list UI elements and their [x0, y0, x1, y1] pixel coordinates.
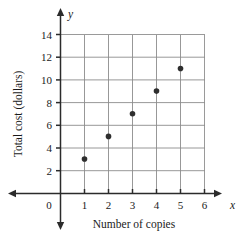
- y-axis-title: Total cost (dollars): [12, 70, 25, 157]
- plot-svg: 0 1 2 3 4 5 6 14 12 10 8 6 4 2 y x Numbe…: [0, 0, 248, 247]
- x-axis-tick-labels: 0 1 2 3 4 5 6: [46, 199, 208, 211]
- x-axis-variable-label: x: [229, 199, 236, 211]
- x-tick-label-6: 6: [202, 199, 208, 211]
- x-tick-label-4: 4: [154, 199, 160, 211]
- y-axis-top-arrow: [57, 8, 64, 16]
- y-tick-label-12: 12: [41, 51, 52, 63]
- x-tick-label-1: 1: [82, 199, 88, 211]
- x-tick-label-3: 3: [130, 199, 136, 211]
- y-tick-label-2: 2: [47, 165, 53, 177]
- data-point: [106, 134, 112, 140]
- data-point: [130, 111, 136, 117]
- y-tick-label-4: 4: [47, 142, 53, 154]
- data-point: [82, 156, 88, 162]
- x-tick-label-2: 2: [106, 199, 112, 211]
- x-tick-label-0: 0: [46, 199, 52, 211]
- y-axis-variable-label: y: [67, 8, 74, 21]
- scatter-plot-figure: 0 1 2 3 4 5 6 14 12 10 8 6 4 2 y x Numbe…: [0, 0, 248, 247]
- y-axis: [57, 8, 64, 230]
- data-point: [178, 66, 184, 72]
- data-point: [154, 88, 160, 94]
- y-axis-bottom-arrow: [57, 222, 64, 230]
- x-axis-title: Number of copies: [93, 218, 176, 231]
- y-tick-label-14: 14: [41, 29, 53, 41]
- y-tick-label-6: 6: [47, 119, 53, 131]
- x-tick-label-5: 5: [178, 199, 184, 211]
- x-axis-right-arrow: [214, 190, 222, 197]
- x-axis: [8, 190, 222, 197]
- y-tick-label-8: 8: [47, 97, 53, 109]
- y-tick-label-10: 10: [41, 74, 53, 86]
- y-axis-tick-labels: 14 12 10 8 6 4 2: [41, 29, 53, 177]
- x-axis-left-arrow: [8, 190, 16, 197]
